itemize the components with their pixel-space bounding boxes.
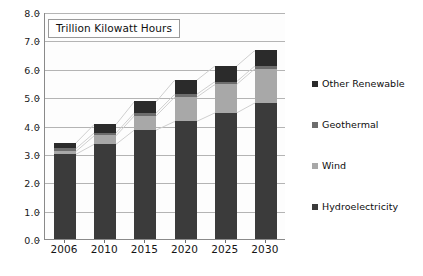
legend-label: Other Renewable	[322, 78, 405, 89]
y-axis-tick-label: 7.0	[6, 36, 40, 47]
y-axis-tick-label: 4.0	[6, 121, 40, 132]
x-axis-tick-label: 2030	[243, 243, 287, 255]
x-axis-tick-mark	[225, 240, 226, 243]
bar-segment-hydroelectricity	[134, 130, 156, 239]
x-axis-tick-label: 2010	[82, 243, 126, 255]
y-axis-tick-label: 0.0	[6, 235, 40, 246]
y-axis-tick-mark	[36, 240, 40, 241]
bar-segment-geothermal	[175, 94, 197, 97]
bar-segment-hydroelectricity	[54, 154, 76, 239]
legend-item-wind[interactable]: Wind	[312, 160, 346, 171]
y-axis-tick-mark	[36, 41, 40, 42]
bar-segment-other-renewable	[134, 101, 156, 112]
x-axis-tick-mark	[64, 240, 65, 243]
bar-segment-other-renewable	[54, 143, 76, 149]
bar-segment-other-renewable	[175, 80, 197, 94]
bar-segment-geothermal	[94, 133, 116, 136]
plot-area	[44, 13, 285, 240]
bar-segment-hydroelectricity	[255, 103, 277, 239]
y-axis-tick-mark	[36, 98, 40, 99]
bar-segment-wind	[134, 116, 156, 130]
y-axis-tick-label: 1.0	[6, 206, 40, 217]
legend-swatch-icon	[312, 204, 318, 210]
legend-item-hydroelectricity[interactable]: Hydroelectricity	[312, 201, 398, 212]
bar-segment-other-renewable	[94, 124, 116, 133]
bar-segment-geothermal	[215, 82, 237, 85]
y-axis: 0.01.02.03.04.05.06.07.08.0	[0, 13, 40, 240]
x-axis-tick-mark	[144, 240, 145, 243]
y-axis-tick-mark	[36, 155, 40, 156]
bar-segment-other-renewable	[215, 66, 237, 82]
bar-2020	[175, 12, 197, 239]
x-axis-tick-label: 2020	[163, 243, 207, 255]
y-axis-tick-label: 2.0	[6, 178, 40, 189]
legend-label: Hydroelectricity	[322, 201, 398, 212]
bar-segment-hydroelectricity	[175, 121, 197, 239]
bar-segment-wind	[54, 151, 76, 154]
bar-segment-geothermal	[255, 66, 277, 69]
legend-swatch-icon	[312, 122, 318, 128]
bar-segment-wind	[255, 69, 277, 103]
x-axis-tick-mark	[265, 240, 266, 243]
x-axis-tick-label: 2025	[203, 243, 247, 255]
bar-segment-wind	[215, 84, 237, 112]
x-axis-tick-label: 2006	[42, 243, 86, 255]
legend-swatch-icon	[312, 163, 318, 169]
legend-label: Wind	[322, 160, 346, 171]
bar-segment-hydroelectricity	[215, 113, 237, 239]
y-axis-tick-label: 5.0	[6, 93, 40, 104]
bar-series-group	[45, 13, 285, 239]
y-axis-tick-label: 3.0	[6, 149, 40, 160]
y-axis-tick-mark	[36, 70, 40, 71]
chart-title: Trillion Kilowatt Hours	[48, 19, 180, 38]
bar-segment-geothermal	[54, 148, 76, 151]
y-axis-tick-mark	[36, 183, 40, 184]
legend-swatch-icon	[312, 81, 318, 87]
y-axis-tick-label: 8.0	[6, 8, 40, 19]
y-axis-tick-mark	[36, 127, 40, 128]
bar-segment-wind	[94, 135, 116, 144]
bar-2030	[255, 12, 277, 239]
bar-2006	[54, 12, 76, 239]
legend-item-geothermal[interactable]: Geothermal	[312, 119, 379, 130]
legend-item-other-renewable[interactable]: Other Renewable	[312, 78, 405, 89]
bar-2010	[94, 12, 116, 239]
legend-label: Geothermal	[322, 119, 379, 130]
y-axis-tick-mark	[36, 212, 40, 213]
x-axis-tick-label: 2015	[122, 243, 166, 255]
bar-segment-hydroelectricity	[94, 144, 116, 239]
bar-segment-other-renewable	[255, 50, 277, 66]
bar-segment-geothermal	[134, 113, 156, 116]
bar-segment-wind	[175, 97, 197, 121]
bar-2025	[215, 12, 237, 239]
x-axis: 200620102015202020252030	[44, 243, 285, 263]
x-axis-tick-mark	[185, 240, 186, 243]
x-axis-tick-mark	[104, 240, 105, 243]
bar-2015	[134, 12, 156, 239]
y-axis-tick-label: 6.0	[6, 64, 40, 75]
y-axis-tick-mark	[36, 13, 40, 14]
chart-container: 0.01.02.03.04.05.06.07.08.0 200620102015…	[0, 0, 423, 276]
